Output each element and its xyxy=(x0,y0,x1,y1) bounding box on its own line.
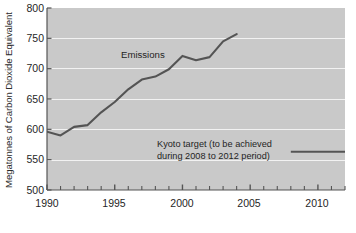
y-axis-ticks xyxy=(47,8,52,190)
axis-lines xyxy=(0,0,356,233)
emissions-line-chart: Megatonnes of Carbon Dioxide Equivalent … xyxy=(0,0,356,233)
x-axis-ticks xyxy=(47,185,345,191)
